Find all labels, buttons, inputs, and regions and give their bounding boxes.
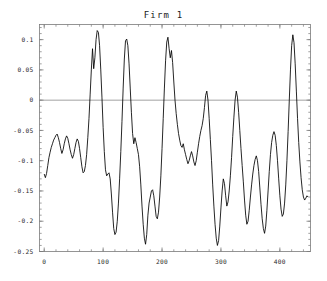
- svg-text:400: 400: [274, 258, 286, 265]
- svg-text:-0.05: -0.05: [13, 127, 33, 134]
- chart-figure: Firm 1 0.10.050-0.05-0.1-0.15-0.2-0.25 0…: [0, 0, 327, 281]
- svg-text:-0.1: -0.1: [17, 157, 33, 164]
- svg-text:0: 0: [29, 96, 33, 103]
- plot-frame: [40, 25, 311, 252]
- svg-text:0.1: 0.1: [21, 36, 33, 43]
- line-chart-plot: 0.10.050-0.05-0.1-0.15-0.2-0.25 01002003…: [0, 0, 327, 281]
- svg-text:100: 100: [97, 258, 109, 265]
- minor-tick-marks: [40, 25, 311, 252]
- svg-text:-0.25: -0.25: [13, 248, 33, 255]
- data-series-line: [44, 31, 308, 246]
- svg-text:200: 200: [156, 258, 168, 265]
- svg-text:-0.15: -0.15: [13, 187, 33, 194]
- svg-text:0.05: 0.05: [17, 66, 33, 73]
- major-tick-marks: [40, 25, 311, 252]
- svg-text:300: 300: [215, 258, 227, 265]
- y-axis-tick-labels: 0.10.050-0.05-0.1-0.15-0.2-0.25: [13, 36, 33, 255]
- svg-text:0: 0: [42, 258, 46, 265]
- svg-text:-0.2: -0.2: [17, 217, 33, 224]
- x-axis-tick-labels: 0100200300400: [42, 258, 286, 265]
